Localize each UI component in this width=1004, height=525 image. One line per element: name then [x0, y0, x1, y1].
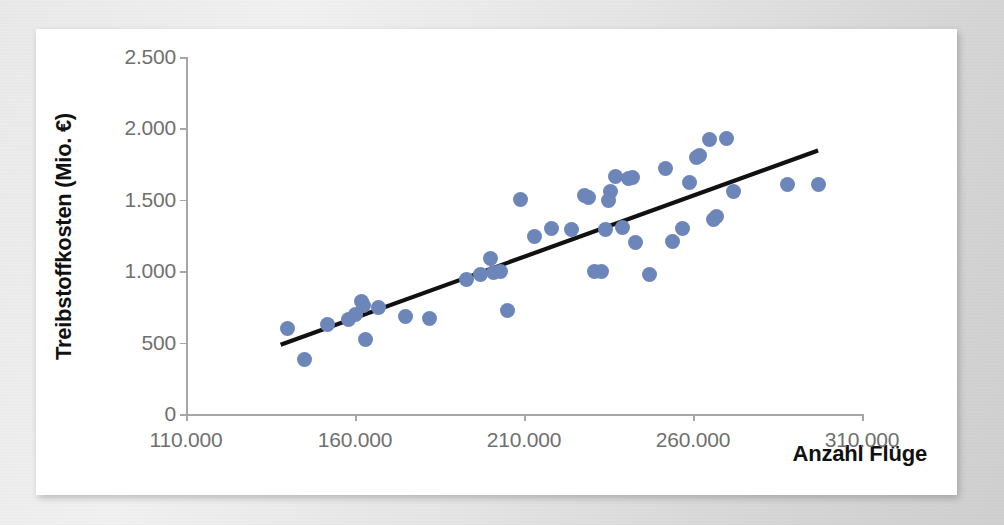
x-tick-label: 110.000: [150, 428, 223, 452]
data-point: [726, 184, 741, 199]
x-tick-label: 160.000: [318, 428, 393, 452]
data-point: [811, 177, 826, 192]
y-tick-label: 1.500: [124, 188, 176, 212]
y-tick-label: 500: [142, 331, 176, 355]
data-point: [581, 190, 596, 205]
data-point: [493, 264, 508, 279]
data-point: [356, 298, 371, 313]
data-point: [358, 332, 373, 347]
data-point: [422, 311, 437, 326]
x-tick: [524, 414, 526, 421]
x-tick: [355, 414, 357, 421]
page-background: Treibstoffkosten (Mio. €) Anzahl Flüge 0…: [0, 0, 1004, 525]
data-point: [615, 220, 630, 235]
x-tick: [693, 414, 695, 421]
data-point: [564, 222, 579, 237]
x-tick: [186, 414, 188, 421]
data-point: [500, 303, 515, 318]
data-point: [642, 267, 657, 282]
data-point: [594, 264, 609, 279]
plot-area: 05001.0001.5002.0002.500 110.000160.0002…: [186, 57, 862, 414]
data-point: [297, 352, 312, 367]
y-tick-label: 0: [165, 402, 176, 426]
data-point: [625, 170, 640, 185]
chart-panel: Treibstoffkosten (Mio. €) Anzahl Flüge 0…: [36, 29, 957, 495]
data-point: [483, 251, 498, 266]
x-tick-label: 260.000: [656, 428, 731, 452]
data-point: [598, 222, 613, 237]
data-point: [709, 209, 724, 224]
data-point: [280, 321, 295, 336]
data-point: [527, 229, 542, 244]
y-tick-label: 2.500: [124, 45, 176, 69]
y-axis-title: Treibstoffkosten (Mio. €): [50, 58, 78, 415]
trendline: [186, 57, 862, 414]
x-tick-label: 310.000: [825, 428, 900, 452]
data-point: [544, 221, 559, 236]
x-tick-label: 210.000: [487, 428, 562, 452]
y-tick-label: 2.000: [124, 116, 176, 140]
y-tick-label: 1.000: [124, 259, 176, 283]
x-tick: [862, 414, 864, 421]
